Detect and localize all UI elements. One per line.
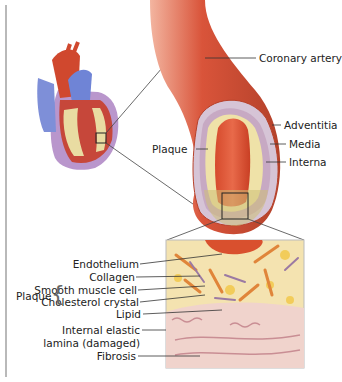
label-fibrosis: Fibrosis (97, 350, 136, 362)
label-lipid: Lipid (116, 308, 141, 320)
plaque-brace: { (51, 281, 65, 307)
coronary-artery-illustration (150, 0, 280, 234)
label-adventitia: Adventitia (284, 119, 338, 131)
tissue-cross-section (166, 240, 304, 368)
label-collagen: Collagen (89, 271, 135, 283)
label-lamina-damaged: lamina (damaged) (43, 337, 140, 349)
label-interna: Interna (289, 156, 327, 168)
label-plaque: Plaque (152, 143, 187, 155)
label-media: Media (289, 138, 321, 150)
label-plaque-group: Plaque (16, 290, 51, 302)
label-internal-elastic: Internal elastic (62, 324, 140, 336)
label-endothelium: Endothelium (73, 258, 139, 270)
heart-illustration (37, 42, 118, 170)
label-coronary-artery: Coronary artery (259, 52, 342, 64)
